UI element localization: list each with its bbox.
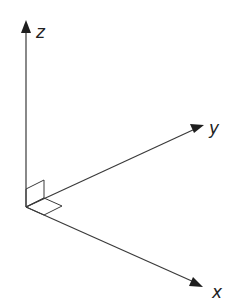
x-axis-arrowhead-icon <box>189 277 203 287</box>
y-axis-label: y <box>208 118 220 138</box>
coordinate-axes-diagram: z y x <box>0 0 241 308</box>
y-axis-arrowhead-icon <box>190 124 204 133</box>
x-axis-label: x <box>211 282 223 302</box>
axes-group <box>21 20 204 287</box>
z-axis-arrowhead-icon <box>21 20 31 33</box>
yz-plane-marker <box>26 180 44 207</box>
axis-labels: z y x <box>35 22 223 302</box>
y-axis-line <box>26 129 195 207</box>
right-angle-marker <box>26 180 62 215</box>
x-axis-line <box>26 207 194 282</box>
xy-plane-marker <box>26 198 62 215</box>
z-axis-label: z <box>35 22 46 42</box>
